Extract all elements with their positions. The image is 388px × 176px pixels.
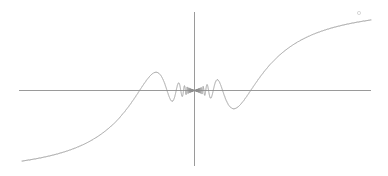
plot-canvas xyxy=(0,0,388,176)
plot-figure xyxy=(0,0,388,176)
